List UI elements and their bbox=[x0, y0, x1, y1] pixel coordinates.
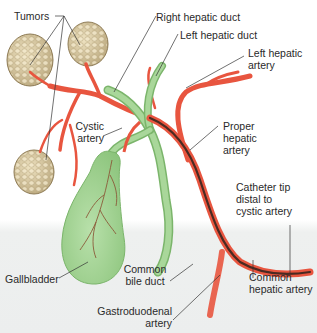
gallbladder bbox=[62, 151, 125, 284]
tumor-2 bbox=[68, 22, 108, 66]
label-right-hepatic-duct: Right hepatic duct bbox=[156, 11, 240, 23]
label-left-hepatic-artery: Left hepatic artery bbox=[248, 47, 302, 71]
label-common-hepatic-artery: Common hepatic artery bbox=[249, 271, 313, 295]
label-gallbladder: Gallbladder bbox=[5, 273, 59, 285]
hepatic-anatomy-diagram: Tumors Right hepatic duct Left hepatic d… bbox=[0, 0, 317, 333]
label-gastroduodenal-artery: Gastroduodenal artery bbox=[96, 305, 172, 329]
label-catheter-tip: Catheter tip distal to cystic artery bbox=[236, 181, 292, 217]
label-proper-hepatic-artery: Proper hepatic artery bbox=[223, 120, 257, 156]
label-left-hepatic-duct: Left hepatic duct bbox=[180, 29, 257, 41]
gastroduodenal-artery bbox=[210, 252, 222, 315]
label-tumors: Tumors bbox=[14, 10, 49, 22]
label-common-bile-duct: Common bile duct bbox=[118, 263, 172, 287]
label-cystic-artery: Cystic artery bbox=[70, 120, 104, 144]
tumor-3 bbox=[14, 150, 54, 194]
